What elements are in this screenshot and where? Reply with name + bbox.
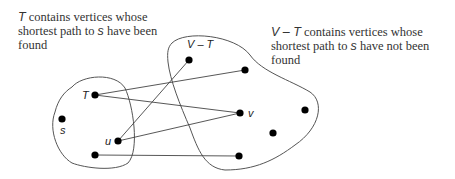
set-VT-boundary [168,36,319,170]
edge [95,95,240,113]
label-u: u [105,135,111,147]
vertex-u [114,137,121,144]
vertex [185,56,192,63]
edge [95,155,239,156]
vertex-v [236,109,243,116]
vertex [91,151,98,158]
vertex [301,106,308,113]
label-VT-set: V – T [187,38,215,50]
vertex-T [91,91,98,98]
graph-diagram: T s u v V – T [0,0,455,179]
vertex [241,66,248,73]
vertex [235,152,242,159]
vertex [269,129,276,136]
label-T: T [82,89,90,101]
edge [118,113,240,141]
label-s: s [60,124,66,136]
vertex-s [58,115,65,122]
label-v: v [248,107,255,119]
